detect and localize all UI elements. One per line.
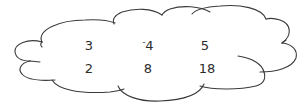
number-value: 4 (145, 38, 153, 53)
number-r1-c2: -4 (142, 38, 153, 53)
number-r2-c1: 2 (85, 61, 93, 76)
number-r2-c3: 18 (199, 61, 216, 76)
number-r1-c3: 5 (201, 38, 209, 53)
number-r1-c1: 3 (85, 38, 93, 53)
number-value: 3 (85, 38, 93, 53)
cloud-shape (0, 0, 308, 109)
number-value: 18 (199, 61, 216, 76)
number-value: 5 (201, 38, 209, 53)
number-value: 8 (144, 61, 152, 76)
number-value: 2 (85, 61, 93, 76)
number-r2-c2: 8 (144, 61, 152, 76)
